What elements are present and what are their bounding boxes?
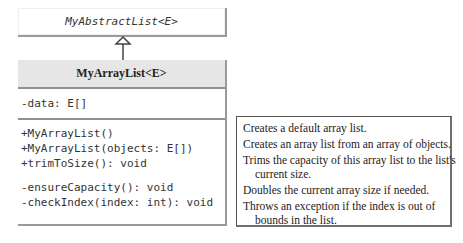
method-gap [21,171,225,180]
method-ensure-capacity: -ensureCapacity(): void [21,180,225,195]
class-header: MyArrayList<E> [18,60,225,89]
methods-section: +MyArrayList() +MyArrayList(objects: E[]… [18,120,225,210]
description-check-index-cont: bounds in the list. [243,214,450,228]
description-box: Creates a default array list. Creates an… [236,116,452,227]
inheritance-arrow-icon [114,36,132,62]
description-trim-to-size: Trims the capacity of this array list to… [243,152,450,168]
method-trim-to-size: +trimToSize(): void [21,156,225,171]
method-constructor-objects: +MyArrayList(objects: E[]) [21,141,225,156]
class-box: MyArrayList<E> -data: E[] +MyArrayList()… [18,60,227,226]
method-check-index: -checkIndex(index: int): void [21,195,225,210]
description-check-index: Throws an exception if the index is out … [243,198,450,214]
description-ensure-capacity: Doubles the current array size if needed… [243,182,450,198]
method-constructor-default: +MyArrayList() [21,126,225,141]
parent-class-name: MyAbstractList<E> [65,15,178,28]
class-name: MyArrayList<E> [76,66,166,81]
attribute-data: -data: E[] [21,97,87,110]
description-default-constructor: Creates a default array list. [243,120,450,136]
description-trim-to-size-cont: current size. [243,168,450,182]
description-objects-constructor: Creates an array list from an array of o… [243,136,450,152]
attributes-section: -data: E[] [18,89,225,120]
parent-class-box: MyAbstractList<E> [18,8,227,37]
